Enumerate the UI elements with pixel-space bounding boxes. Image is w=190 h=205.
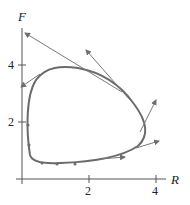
- x-tick-label-2: 2: [85, 184, 91, 198]
- phase-plane-diagram: F R 2 4 4 2: [0, 0, 190, 205]
- sample-dot: [41, 162, 44, 165]
- y-tick-label-2: 2: [8, 115, 14, 129]
- vector-arrow: [21, 74, 40, 87]
- trajectory-curve: [28, 67, 146, 163]
- vector-arrow: [86, 50, 130, 100]
- y-tick-label-4: 4: [8, 58, 14, 72]
- vector-arrow: [25, 33, 122, 92]
- x-tick-label-4: 4: [152, 184, 158, 198]
- tangent-vectors: [21, 33, 159, 159]
- sample-dot: [28, 144, 31, 147]
- sample-dot: [27, 124, 30, 127]
- sample-dot: [74, 163, 77, 166]
- sample-dot: [56, 163, 59, 166]
- y-axis-label: F: [17, 9, 27, 24]
- x-axis-label: R: [170, 172, 179, 187]
